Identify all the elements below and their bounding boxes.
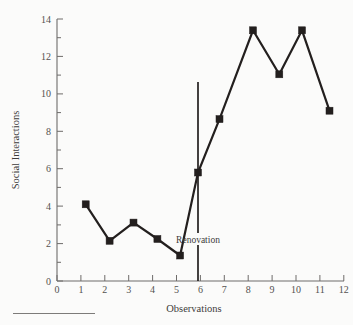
x-axis-tick-labels: 0 1 2 3 4 5 6 7 8 9 10 11 12 (55, 284, 349, 295)
x-tick-label: 8 (246, 284, 251, 295)
data-point-marker (276, 71, 283, 78)
x-axis-ticks (57, 275, 344, 281)
data-point-marker (326, 107, 333, 114)
renovation-annotation-group: Renovation (176, 82, 220, 281)
data-point-marker (250, 27, 257, 34)
x-tick-label: 0 (55, 284, 60, 295)
data-point-marker (299, 27, 306, 34)
data-point-marker (82, 201, 89, 208)
x-tick-label: 10 (291, 284, 301, 295)
x-tick-label: 9 (270, 284, 275, 295)
x-tick-label: 4 (150, 284, 155, 295)
x-tick-label: 5 (174, 284, 179, 295)
x-tick-label: 6 (198, 284, 203, 295)
y-tick-label: 2 (46, 238, 51, 249)
y-tick-label: 0 (46, 276, 51, 287)
data-series-group (82, 27, 333, 259)
y-tick-label: 6 (46, 163, 51, 174)
y-axis-title: Social Interactions (10, 111, 21, 189)
data-point-marker (177, 252, 184, 259)
y-tick-label: 4 (46, 201, 51, 212)
y-tick-label: 12 (41, 51, 51, 62)
data-point-marker (130, 219, 137, 226)
x-tick-label: 1 (78, 284, 83, 295)
data-point-marker (216, 116, 223, 123)
figure-container: 0 2 4 6 8 10 12 14 0 1 (0, 0, 353, 325)
x-tick-label: 7 (222, 284, 227, 295)
x-tick-label: 11 (315, 284, 325, 295)
y-tick-label: 14 (41, 14, 51, 25)
x-axis-title: Observations (166, 303, 221, 314)
line-chart: 0 2 4 6 8 10 12 14 0 1 (0, 0, 353, 325)
y-tick-label: 8 (46, 126, 51, 137)
x-tick-label: 3 (126, 284, 131, 295)
data-point-marker (154, 236, 161, 243)
renovation-label: Renovation (176, 235, 220, 245)
y-axis-minor-ticks (57, 38, 61, 263)
x-tick-label: 12 (339, 284, 349, 295)
y-tick-label: 10 (41, 88, 51, 99)
footer-rule (13, 313, 95, 314)
y-axis-tick-labels: 0 2 4 6 8 10 12 14 (41, 14, 51, 287)
data-point-marker (106, 237, 113, 244)
x-tick-label: 2 (102, 284, 107, 295)
series-line-social-interactions (86, 30, 330, 255)
